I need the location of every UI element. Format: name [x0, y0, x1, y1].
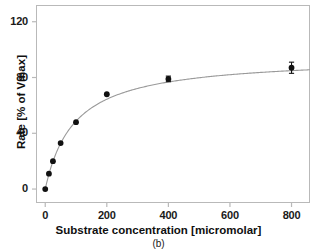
data-point: [165, 76, 171, 82]
x-tick-label: 600: [210, 209, 250, 221]
x-axis-title: Substrate concentration [micromolar]: [0, 224, 317, 236]
x-tick-label: 800: [272, 209, 312, 221]
y-axis-tick-marks: [32, 22, 36, 189]
x-tick-label: 400: [148, 209, 188, 221]
y-axis-title: Rate [% of Vmax]: [15, 27, 27, 177]
data-point: [58, 140, 64, 146]
figure-caption: (b): [0, 238, 317, 249]
data-point: [50, 158, 56, 164]
data-point: [42, 186, 48, 192]
data-points: [42, 65, 294, 192]
data-point: [104, 91, 110, 97]
fit-curve: [45, 70, 310, 189]
data-point: [289, 65, 295, 71]
y-tick-label: 0: [2, 182, 28, 194]
data-point: [46, 171, 52, 177]
data-point: [73, 119, 79, 125]
figure-panel-b: 04080120 0200400600800 Rate [% of Vmax] …: [0, 0, 317, 251]
x-tick-label: 0: [25, 209, 65, 221]
y-tick-label: 120: [2, 15, 28, 27]
x-axis-tick-marks: [45, 203, 291, 207]
x-tick-label: 200: [87, 209, 127, 221]
